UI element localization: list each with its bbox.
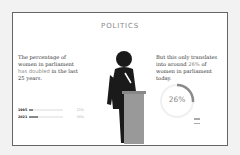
comparison-bars: 1995 11% 2021 26% — [18, 106, 84, 120]
bar-value: 11% — [77, 108, 84, 112]
woman-at-podium-icon — [107, 49, 147, 145]
bar-value: 26% — [77, 115, 84, 119]
legend-swatch — [194, 123, 200, 125]
bar-row-2021: 2021 26% — [18, 113, 84, 120]
highlight-doubled: has doubled — [18, 68, 50, 74]
section-title: POLITICS — [13, 22, 227, 30]
bar-year: 2021 — [18, 115, 28, 119]
bar-track — [29, 116, 63, 118]
left-statement: The percentage of women in parliament ha… — [18, 54, 83, 82]
bar-fill — [29, 109, 33, 111]
highlight-percent: 26% — [188, 61, 200, 67]
bar-year: 1995 — [18, 108, 28, 112]
donut-legend — [194, 118, 200, 127]
bar-fill — [29, 116, 38, 118]
bar-row-1995: 1995 11% — [18, 106, 84, 113]
bar-track — [29, 109, 63, 111]
right-statement: But this only translates into around 26%… — [156, 54, 224, 82]
donut-label: 26% — [158, 95, 196, 104]
legend-swatch — [194, 118, 200, 120]
